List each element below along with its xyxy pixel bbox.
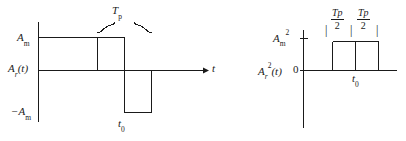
left-axis-arrowhead [203,68,209,74]
left-brace-right-half [134,23,152,33]
left-brace-label-tp: Tp [112,5,122,19]
right-halfwidth-left-fraction: Tp 2 [331,8,344,31]
left-signal-label: Ar(t) [8,63,28,77]
left-ylabel-neg-am: −Am [11,106,31,120]
right-halfwidth-right-fraction: Tp 2 [357,8,370,31]
right-signal-label: Ar2(t) [258,64,282,79]
right-halfwidth-left-numerator: Tp [331,8,344,19]
left-ylabel-am: Am [17,32,30,46]
right-zero-label: 0 [293,64,299,75]
left-time-marker-t0: t0 [118,118,125,132]
left-brace-left-half [97,23,115,33]
right-halfwidth-right-numerator: Tp [357,8,370,19]
right-separator-pipe-right: | [376,24,378,36]
right-separator-pipe-middle: | [350,24,352,36]
right-halfwidth-right-denominator: 2 [361,21,366,32]
right-time-marker-t0: t0 [352,73,359,87]
right-ylabel-am-squared: Am2 [273,31,289,46]
right-separator-pipe-left: | [325,24,327,36]
figure-container: Am Ar(t) −Am Tp t0 t Am2 Ar2(t) 0 t0 | T… [0,0,406,141]
figure-canvas [0,0,406,141]
left-xlabel-t: t [212,63,215,74]
right-halfwidth-left-denominator: 2 [335,21,340,32]
